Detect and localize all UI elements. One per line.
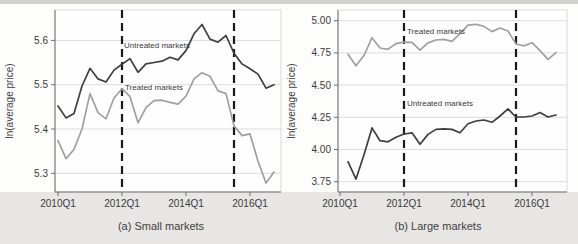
chart-large-markets: 3.754.004.254.504.755.002010Q12012Q12014… [289, 0, 578, 244]
caption-large-markets: (b) Large markets [395, 220, 482, 232]
x-tick-label: 2016Q1 [514, 198, 550, 209]
y-tick-label: 5.4 [34, 124, 48, 135]
series-label-treated: Treated markets [407, 27, 465, 36]
x-tick-label: 2012Q1 [104, 198, 140, 209]
x-tick-label: 2014Q1 [168, 198, 204, 209]
y-tick-label: 5.00 [312, 15, 332, 26]
y-tick-label: 4.75 [312, 47, 332, 58]
panel-small-markets: 5.35.45.55.62010Q12012Q12014Q12016Q1Untr… [0, 0, 289, 244]
caption-small-markets: (a) Small markets [118, 220, 205, 232]
y-tick-label: 5.6 [34, 35, 48, 46]
x-tick-label: 2016Q1 [232, 198, 268, 209]
y-tick-label: 5.3 [34, 168, 48, 179]
plot-area-large-markets: 3.754.004.254.504.755.002010Q12012Q12014… [312, 10, 567, 209]
x-tick-label: 2010Q1 [322, 198, 358, 209]
chart-small-markets: 5.35.45.55.62010Q12012Q12014Q12016Q1Untr… [0, 0, 289, 244]
y-tick-label: 5.5 [34, 79, 48, 90]
series-label-untreated: Untreated markets [407, 99, 473, 108]
y-tick-label: 3.75 [312, 176, 332, 187]
y-axis-title-small: ln(average price) [4, 63, 15, 138]
x-tick-label: 2014Q1 [450, 198, 486, 209]
figure-two-panel-line-chart: 5.35.45.55.62010Q12012Q12014Q12016Q1Untr… [0, 0, 578, 244]
y-tick-label: 4.00 [312, 144, 332, 155]
x-tick-label: 2010Q1 [40, 198, 76, 209]
plot-area-small-markets: 5.35.45.55.62010Q12012Q12014Q12016Q1Untr… [34, 10, 281, 209]
y-tick-label: 4.25 [312, 112, 332, 123]
panel-large-markets: 3.754.004.254.504.755.002010Q12012Q12014… [289, 0, 578, 244]
y-axis-title-large: ln(average price) [286, 63, 297, 138]
series-label-treated: Treated markets [125, 83, 183, 92]
series-label-untreated: Untreated markets [124, 41, 190, 50]
y-tick-label: 4.50 [312, 80, 332, 91]
x-tick-label: 2012Q1 [386, 198, 422, 209]
